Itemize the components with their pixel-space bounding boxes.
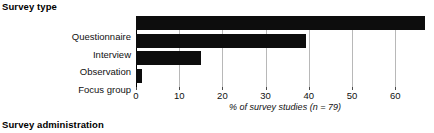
survey-type-bar-chart: QuestionnaireInterviewObservationFocus g…: [0, 14, 434, 118]
tick-label-50: 50: [347, 90, 358, 101]
tick-label-30: 30: [260, 90, 271, 101]
plot-area: [136, 16, 434, 87]
category-label-interview: Interview: [93, 48, 131, 62]
bar-observation: [136, 51, 201, 65]
category-axis-labels: QuestionnaireInterviewObservationFocus g…: [0, 30, 131, 101]
section-heading-survey-type: Survey type: [2, 1, 57, 13]
tick-label-20: 20: [217, 90, 228, 101]
tick-label-0: 0: [133, 90, 138, 101]
x-axis-label: % of survey studies (n = 79): [136, 102, 434, 112]
bar-questionnaire: [136, 16, 425, 30]
section-heading-survey-administration: Survey administration: [2, 119, 104, 131]
tick-label-60: 60: [390, 90, 401, 101]
category-label-observation: Observation: [80, 65, 131, 79]
category-label-questionnaire: Questionnaire: [72, 30, 131, 44]
x-axis-ticks: 0102030405060: [136, 87, 434, 101]
category-label-focus-group: Focus group: [78, 83, 131, 97]
tick-label-10: 10: [174, 90, 185, 101]
bar-focus-group: [136, 69, 142, 83]
tick-label-40: 40: [304, 90, 315, 101]
bar-interview: [136, 34, 306, 48]
